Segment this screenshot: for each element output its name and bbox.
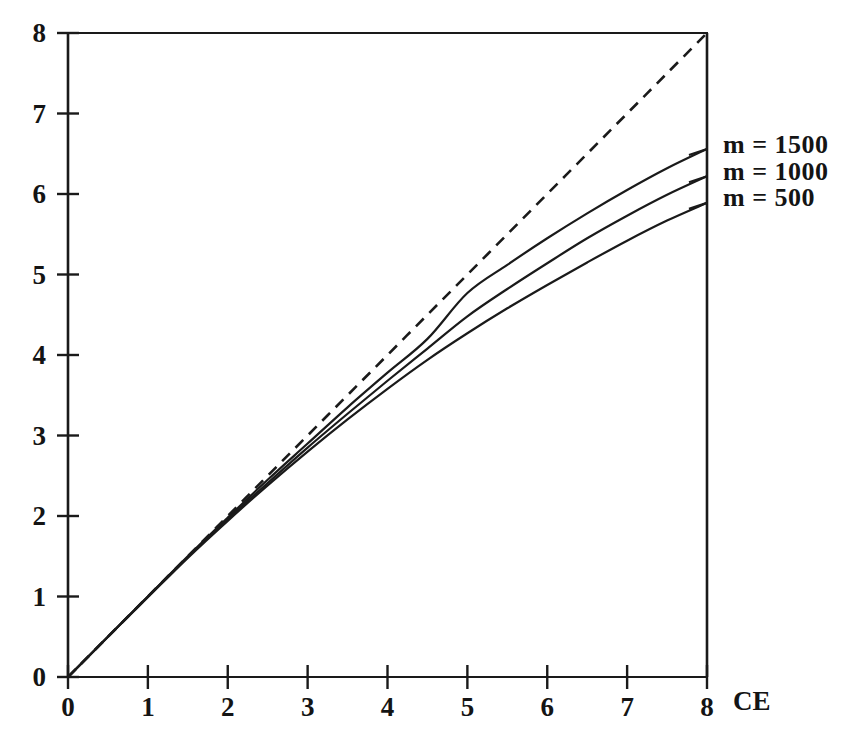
series-line: [68, 203, 707, 677]
legend-leader-lines: [689, 149, 707, 209]
chart-plot-svg: [0, 0, 847, 738]
legend-item-m-500: m = 500: [723, 185, 815, 211]
chart-series-lines: [68, 33, 707, 677]
x-axis-title: CE: [733, 688, 771, 715]
y-tick-label: 6: [0, 181, 46, 208]
x-tick-label: 2: [221, 694, 235, 721]
legend-item-m-1000: m = 1000: [723, 159, 828, 185]
x-tick-label: 6: [541, 694, 555, 721]
series-line: [68, 33, 707, 677]
y-tick-label: 4: [0, 342, 46, 369]
y-tick-label: 3: [0, 422, 46, 449]
y-tick-label: 1: [0, 583, 46, 610]
series-line: [68, 176, 707, 677]
y-tick-label: 0: [0, 664, 46, 691]
chart-container: 012345678 012345678 m = 1500m = 1000m = …: [0, 0, 847, 738]
y-tick-label: 5: [0, 261, 46, 288]
x-tick-label: 7: [620, 694, 634, 721]
y-tick-label: 7: [0, 100, 46, 127]
legend-item-m-1500: m = 1500: [723, 132, 828, 158]
y-tick-label: 2: [0, 503, 46, 530]
x-tick-label: 5: [461, 694, 475, 721]
x-tick-label: 8: [700, 694, 714, 721]
x-tick-label: 4: [381, 694, 395, 721]
series-line: [68, 149, 707, 677]
x-tick-label: 3: [301, 694, 315, 721]
x-tick-label: 0: [61, 694, 75, 721]
y-tick-label: 8: [0, 20, 46, 47]
x-tick-label: 1: [141, 694, 155, 721]
